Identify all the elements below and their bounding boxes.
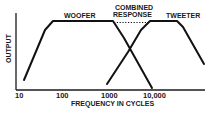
- frequency-response-chart: WOOFER COMBINED RESPONSE TWEETER OUTPUT …: [0, 0, 215, 115]
- combined-label-line2: RESPONSE: [113, 11, 152, 18]
- woofer-curve: [24, 21, 152, 88]
- x-tick-100: 100: [56, 91, 69, 100]
- tweeter-curve: [107, 21, 204, 84]
- x-axis-label: FREQUENCY IN CYCLES: [71, 100, 154, 108]
- x-tick-10: 10: [15, 91, 23, 100]
- woofer-label: WOOFER: [64, 12, 96, 19]
- y-axis-label: OUTPUT: [5, 34, 12, 64]
- combined-label-line1: COMBINED: [115, 4, 153, 11]
- x-tick-10000: 10,000: [143, 91, 166, 100]
- x-tick-1000: 1000: [101, 91, 118, 100]
- tweeter-label: TWEETER: [166, 12, 200, 19]
